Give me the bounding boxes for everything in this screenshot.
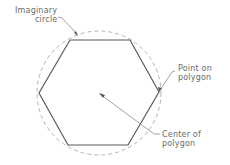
- imaginary-circle-leader: [58, 17, 77, 34]
- hexagon-polygon: [39, 40, 159, 145]
- imaginary-circle-label-line2: circle: [15, 15, 57, 24]
- center-of-polygon-label: Center of polygon: [162, 130, 201, 148]
- center-leader: [100, 94, 160, 134]
- point-on-polygon-label: Point on polygon: [178, 64, 212, 82]
- imaginary-circle-label-line1: Imaginary: [15, 6, 57, 15]
- point-on-polygon-label-line1: Point on: [178, 64, 212, 73]
- imaginary-circle-label: Imaginary circle: [15, 6, 57, 24]
- point-on-polygon-leader: [160, 71, 175, 90]
- point-on-polygon-label-line2: polygon: [178, 73, 212, 82]
- center-of-polygon-label-line1: Center of: [162, 130, 201, 139]
- center-of-polygon-label-line2: polygon: [162, 139, 201, 148]
